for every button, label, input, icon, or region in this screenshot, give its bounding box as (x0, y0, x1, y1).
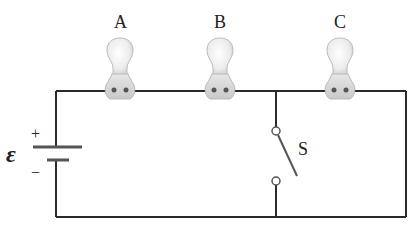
bulb-b-label: B (214, 12, 226, 32)
battery-minus-label: − (31, 164, 40, 181)
bulb-c-base (325, 74, 355, 99)
emf-symbol: ε (6, 141, 16, 167)
bulb-b-contact-right (224, 88, 229, 93)
switch-lever (278, 135, 297, 176)
bulb-c-contact-right (344, 88, 349, 93)
bulb-a-label: A (114, 12, 127, 32)
bulb-a: A (105, 12, 135, 99)
bulb-a-contact-left (112, 88, 117, 93)
bulb-c-glass (327, 38, 353, 76)
bulb-a-glass (107, 38, 133, 76)
bulb-b-contact-left (212, 88, 217, 93)
bulb-c-contact-left (332, 88, 337, 93)
bulb-a-contact-right (124, 88, 129, 93)
circuit-diagram: + − ε S A B C (0, 0, 413, 228)
bulb-b: B (205, 12, 235, 99)
bulb-b-glass (207, 38, 233, 76)
switch-label: S (298, 139, 308, 159)
bulb-a-base (105, 74, 135, 99)
bulb-c-label: C (334, 12, 346, 32)
switch-contact-top (272, 127, 280, 135)
switch: S (272, 127, 308, 185)
switch-contact-bottom (272, 177, 280, 185)
battery: + − ε (6, 125, 82, 181)
wires (56, 91, 406, 217)
bulb-b-base (205, 74, 235, 99)
bulb-c: C (325, 12, 355, 99)
battery-plus-label: + (31, 125, 40, 142)
